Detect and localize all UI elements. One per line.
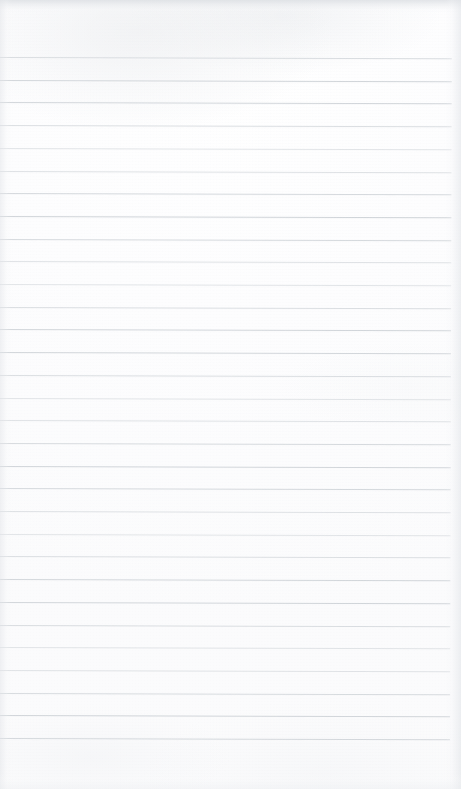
rule-line (0, 375, 451, 377)
rule-line (0, 556, 450, 558)
rule-line (0, 693, 450, 695)
rule-line (0, 193, 451, 195)
rule-line (0, 307, 451, 309)
rule-line (0, 443, 451, 445)
rule-line (0, 738, 450, 740)
rule-line (0, 715, 450, 717)
rule-line (0, 352, 451, 354)
rule-line (0, 125, 452, 127)
rule-line (0, 261, 451, 263)
rule-line (0, 57, 452, 59)
rule-line (0, 488, 451, 490)
rule-line (0, 420, 451, 422)
rule-line (0, 511, 451, 513)
rule-line (0, 239, 451, 241)
rule-line (0, 466, 451, 468)
rule-line (0, 624, 450, 626)
scanned-page (0, 0, 461, 789)
rule-line (0, 102, 452, 104)
rule-line (0, 534, 451, 536)
rule-line (0, 284, 451, 286)
rule-line (0, 148, 452, 150)
rule-line (0, 170, 452, 172)
rule-line (0, 579, 450, 581)
ruled-lines-layer (0, 0, 461, 789)
rule-line (0, 670, 450, 672)
rule-line (0, 216, 451, 218)
rule-line (0, 329, 451, 331)
rule-line (0, 647, 450, 649)
rule-line (0, 397, 451, 399)
rule-line (0, 80, 452, 82)
rule-line (0, 602, 450, 604)
